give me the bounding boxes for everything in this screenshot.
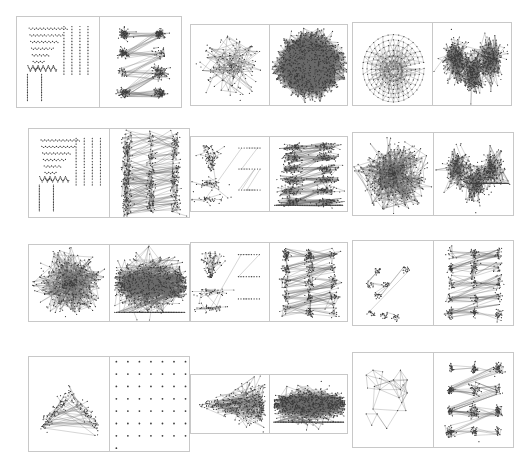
panel-left-funnel-tree-layout bbox=[191, 137, 269, 211]
graph-cell-r2c2[interactable]: ⌐⌐ bbox=[190, 136, 348, 212]
graph-cell-r2c1[interactable]: ⌐⌐ bbox=[28, 128, 190, 218]
graph-cell-r1c2[interactable]: ⌐⌐ bbox=[190, 24, 348, 106]
panel-left-sparse-web-layout bbox=[191, 25, 269, 105]
graph-cell-r3c2[interactable]: ⌐⌐ bbox=[190, 242, 348, 322]
panel-right-regular-dot-grid bbox=[109, 357, 190, 451]
panel-right-cluster-blobs-grid bbox=[109, 129, 190, 217]
panel-right-stacked-band-clusters bbox=[269, 137, 348, 211]
panel-left-nested-diamond-mesh bbox=[353, 23, 432, 105]
panel-right-matrix-cluster-layout bbox=[269, 243, 348, 321]
panel-left-tent-mesh-layout bbox=[29, 357, 109, 451]
panel-right-butterfly-cluster-layout bbox=[432, 23, 512, 105]
panel-right-cluster-blobs-2x4 bbox=[99, 17, 182, 107]
panel-left-radial-burst-layout bbox=[29, 245, 109, 321]
graph-cell-r4c1[interactable]: ⌐⌐ bbox=[28, 356, 190, 452]
panel-right-horizontal-band-layout bbox=[109, 245, 190, 321]
graph-cell-r3c1[interactable]: ⌐⌐ bbox=[28, 244, 190, 322]
panel-right-dense-hairball-layout bbox=[269, 25, 348, 105]
panel-right-floret-cluster-layout bbox=[433, 241, 514, 325]
graph-cell-r3c3[interactable]: ⌐⌐ bbox=[352, 240, 514, 326]
panel-right-dense-horizontal-band bbox=[269, 375, 348, 433]
graph-cell-r4c2[interactable]: ⌐⌐ bbox=[190, 374, 348, 434]
panel-left-triangular-lattice-layout bbox=[29, 129, 109, 217]
graph-cell-r4c3[interactable]: ⌐⌐ bbox=[352, 352, 514, 448]
panel-left-funnel-tree-layout bbox=[191, 243, 269, 321]
figure-grid: ⌐⌐⌐⌐⌐⌐⌐⌐⌐⌐⌐⌐⌐⌐⌐⌐⌐⌐⌐⌐⌐⌐⌐⌐ bbox=[0, 0, 526, 470]
panel-left-fan-cone-layout bbox=[353, 241, 433, 325]
panel-left-dense-web-layout bbox=[353, 133, 433, 215]
graph-cell-r1c3[interactable]: ⌐⌐ bbox=[352, 22, 512, 106]
panel-right-bipolar-cluster-layout bbox=[433, 133, 514, 215]
graph-cell-r1c1[interactable]: ⌐⌐ bbox=[16, 16, 182, 108]
panel-left-comet-tail-layout bbox=[191, 375, 269, 433]
panel-left-triangular-lattice-layout bbox=[17, 17, 99, 107]
panel-left-sparse-polygon-layout bbox=[353, 353, 433, 447]
panel-right-chain-cluster-layout bbox=[433, 353, 514, 447]
graph-cell-r2c3[interactable]: ⌐⌐ bbox=[352, 132, 514, 216]
